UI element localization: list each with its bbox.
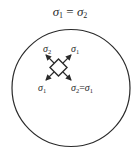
label-lower-right: σ2=σ1 xyxy=(71,82,93,94)
arrow-upper-right-icon xyxy=(63,55,71,63)
stress-diagram: σ1 = σ2 σ2 σ1 σ1 σ2=σ1 xyxy=(0,0,140,158)
label-upper-right: σ1 xyxy=(71,43,79,55)
arrow-lower-left-icon xyxy=(46,72,54,80)
label-lower-left: σ1 xyxy=(38,82,46,94)
arrow-lower-right-icon xyxy=(63,72,71,80)
title-equation: σ1 = σ2 xyxy=(53,4,88,20)
label-upper-left: σ2 xyxy=(43,43,51,55)
arrow-upper-left-icon xyxy=(46,55,54,63)
